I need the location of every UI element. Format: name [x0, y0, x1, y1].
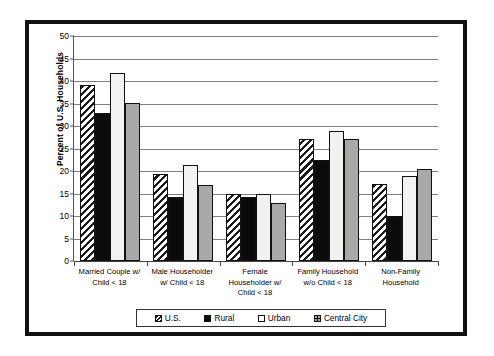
bar-rural[interactable] — [241, 197, 256, 261]
bar-central-city[interactable] — [417, 169, 432, 261]
legend-swatch-icon — [258, 315, 265, 322]
x-axis-label: FemaleHouseholder w/Child < 18 — [219, 267, 292, 299]
y-tick-label: 5 — [64, 234, 69, 244]
gridline — [74, 261, 438, 262]
bar-group — [292, 36, 365, 261]
x-tick-mark — [292, 261, 293, 266]
bar-u-s[interactable] — [80, 85, 95, 261]
bar-group-bars — [299, 36, 359, 261]
bar-central-city[interactable] — [344, 139, 359, 261]
x-axis-label-line: Household — [365, 278, 436, 289]
bar-urban[interactable] — [256, 194, 271, 261]
x-axis-label-line: Householder w/ — [220, 278, 291, 289]
x-tick-mark — [74, 261, 75, 266]
legend-label: Rural — [214, 313, 234, 323]
x-axis-label-line: w/ Child < 18 — [147, 278, 218, 289]
bar-central-city[interactable] — [125, 103, 140, 261]
legend-label: Urban — [268, 313, 291, 323]
y-tick-label: 0 — [64, 256, 69, 266]
y-tick-label: 25 — [60, 144, 69, 154]
legend-item-u-s[interactable]: U.S. — [155, 313, 181, 323]
bar-group — [220, 36, 293, 261]
bar-u-s[interactable] — [153, 174, 168, 261]
bar-rural[interactable] — [168, 197, 183, 261]
bar-u-s[interactable] — [299, 139, 314, 261]
x-axis-label-line: Female — [220, 267, 291, 278]
bar-group-bars — [226, 36, 286, 261]
bar-group — [365, 36, 438, 261]
x-axis-label-line: Married Couple w/ — [74, 267, 145, 278]
legend-label: Central City — [324, 313, 367, 323]
bar-urban[interactable] — [402, 176, 417, 261]
bar-group — [147, 36, 220, 261]
x-axis-label-line: Child < 18 — [74, 278, 145, 289]
y-tick-label: 45 — [60, 54, 69, 64]
x-axis-label-line: w/o Child < 18 — [292, 278, 363, 289]
x-tick-mark — [438, 261, 439, 266]
bar-u-s[interactable] — [372, 184, 387, 261]
y-tick-label: 40 — [60, 76, 69, 86]
x-axis-label-line: Child < 18 — [220, 288, 291, 299]
legend-item-central-city[interactable]: Central City — [314, 313, 367, 323]
bars-layer — [74, 36, 438, 261]
x-axis-label-line: Family Household — [292, 267, 363, 278]
legend-swatch-icon — [204, 315, 211, 322]
x-axis-label: Married Couple w/Child < 18 — [73, 267, 146, 299]
legend-item-rural[interactable]: Rural — [204, 313, 234, 323]
x-axis-label-line: Non-Family — [365, 267, 436, 278]
x-axis-label-line: Male Householder — [147, 267, 218, 278]
x-axis-label: Family Householdw/o Child < 18 — [291, 267, 364, 299]
bar-u-s[interactable] — [226, 194, 241, 261]
x-axis-label: Male Householderw/ Child < 18 — [146, 267, 219, 299]
bar-urban[interactable] — [110, 73, 125, 261]
bar-urban[interactable] — [183, 165, 198, 261]
y-tick-label: 10 — [60, 211, 69, 221]
x-tick-mark — [365, 261, 366, 266]
y-tick-label: 50 — [60, 31, 69, 41]
bar-group — [74, 36, 147, 261]
chart-canvas: Percent of U.S. Households 0510152025303… — [29, 24, 463, 332]
y-tick-label: 15 — [60, 189, 69, 199]
chart-frame-border: Percent of U.S. Households 0510152025303… — [25, 20, 467, 336]
x-tick-mark — [147, 261, 148, 266]
legend-swatch-icon — [314, 315, 321, 322]
y-tick-label: 35 — [60, 99, 69, 109]
legend-item-urban[interactable]: Urban — [258, 313, 291, 323]
x-axis-label: Non-FamilyHousehold — [364, 267, 437, 299]
legend-swatch-icon — [155, 315, 162, 322]
x-axis-category-labels: Married Couple w/Child < 18Male Househol… — [73, 267, 437, 299]
y-tick-label: 20 — [60, 166, 69, 176]
bar-group-bars — [372, 36, 432, 261]
bar-central-city[interactable] — [271, 203, 286, 261]
y-tick-label: 30 — [60, 121, 69, 131]
bar-rural[interactable] — [95, 113, 110, 262]
plot-area: 05101520253035404550 — [73, 36, 438, 261]
bar-rural[interactable] — [314, 160, 329, 261]
legend-label: U.S. — [165, 313, 181, 323]
chart-legend: U.S.RuralUrbanCentral City — [136, 309, 386, 327]
x-tick-mark — [220, 261, 221, 266]
chart-page: Percent of U.S. Households 0510152025303… — [0, 0, 494, 356]
bar-group-bars — [80, 36, 140, 261]
bar-rural[interactable] — [387, 216, 402, 261]
bar-group-bars — [153, 36, 213, 261]
bar-central-city[interactable] — [198, 185, 213, 261]
bar-urban[interactable] — [329, 131, 344, 261]
